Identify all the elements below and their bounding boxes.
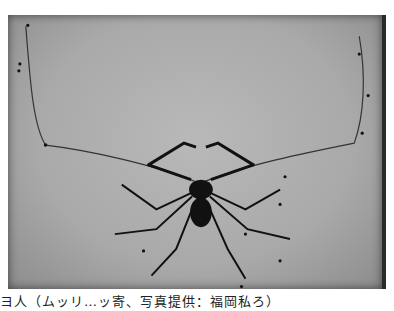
photo-caption: ヨ人（ムッリ…ッ寄、写真提供：福岡私ろ） [0,291,394,311]
whip-spider-illustration [8,15,382,289]
specimen-photo [8,15,386,289]
